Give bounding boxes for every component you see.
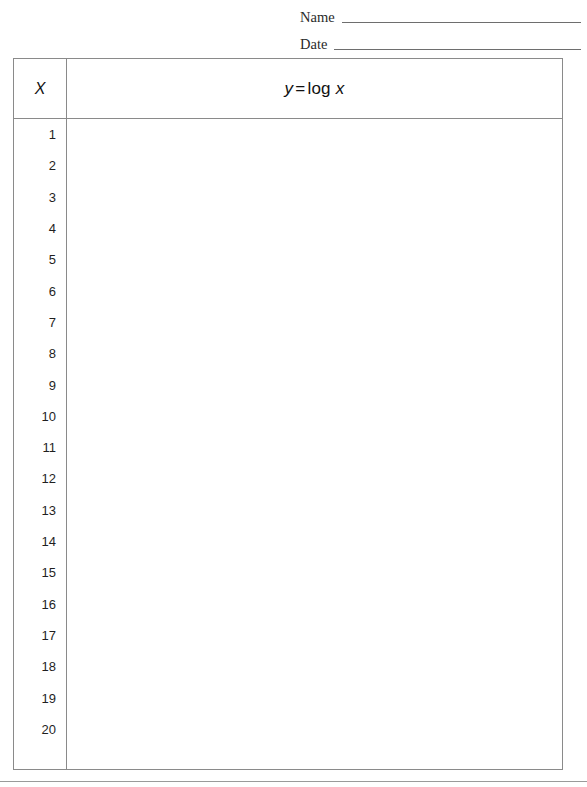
row-x-value: 12 [14, 463, 66, 494]
row-y-answer-cell[interactable] [67, 276, 562, 307]
date-field-row: Date [300, 30, 587, 52]
row-x-value: 3 [14, 182, 66, 213]
row-y-answer-cell[interactable] [67, 150, 562, 181]
row-x-value: 18 [14, 651, 66, 682]
name-label: Name [300, 9, 342, 25]
table-row: 20 [14, 714, 562, 745]
column-header-y: y=log x [67, 59, 562, 118]
table-row: 8 [14, 338, 562, 369]
table-body: 1234567891011121314151617181920 [14, 119, 562, 769]
row-x-value: 16 [14, 589, 66, 620]
row-y-answer-cell[interactable] [67, 714, 562, 745]
row-y-answer-cell[interactable] [67, 495, 562, 526]
row-x-value: 17 [14, 620, 66, 651]
row-x-value: 1 [14, 119, 66, 150]
row-x-value: 11 [14, 432, 66, 463]
name-date-block: Name Date [300, 0, 587, 55]
log-table: X y=log x 123456789101112131415161718192… [13, 58, 563, 770]
row-x-value: 4 [14, 213, 66, 244]
table-row: 11 [14, 432, 562, 463]
table-row: 17 [14, 620, 562, 651]
footer-divider [0, 781, 587, 782]
table-row: 10 [14, 401, 562, 432]
table-row: 6 [14, 276, 562, 307]
table-row: 9 [14, 369, 562, 400]
table-row: 15 [14, 557, 562, 588]
column-header-x: X [14, 59, 66, 118]
name-field-row: Name [300, 3, 587, 25]
table-row: 16 [14, 589, 562, 620]
formula-argument-variable: x [336, 79, 345, 98]
formula-lhs-variable: y [285, 79, 294, 98]
row-y-answer-cell[interactable] [67, 557, 562, 588]
table-row: 14 [14, 526, 562, 557]
row-x-value: 19 [14, 682, 66, 713]
row-y-answer-cell[interactable] [67, 119, 562, 150]
row-x-value: 14 [14, 526, 66, 557]
row-y-answer-cell[interactable] [67, 307, 562, 338]
formula-log-function: log [307, 79, 330, 98]
row-y-answer-cell[interactable] [67, 463, 562, 494]
table-row: 5 [14, 244, 562, 275]
row-y-answer-cell[interactable] [67, 682, 562, 713]
row-y-answer-cell[interactable] [67, 620, 562, 651]
formula-equals-operator: = [293, 79, 307, 98]
table-row: 7 [14, 307, 562, 338]
row-x-value: 5 [14, 244, 66, 275]
row-y-answer-cell[interactable] [67, 651, 562, 682]
table-row: 13 [14, 495, 562, 526]
column-header-y-formula: y=log x [285, 79, 345, 99]
table-row: 19 [14, 682, 562, 713]
row-x-value: 8 [14, 338, 66, 369]
row-y-answer-cell[interactable] [67, 432, 562, 463]
row-x-value: 7 [14, 307, 66, 338]
row-y-answer-cell[interactable] [67, 526, 562, 557]
row-x-value: 6 [14, 276, 66, 307]
row-y-answer-cell[interactable] [67, 401, 562, 432]
name-write-in-line[interactable] [342, 22, 581, 23]
table-row: 4 [14, 213, 562, 244]
table-row: 2 [14, 150, 562, 181]
date-label: Date [300, 36, 334, 52]
column-header-x-label: X [35, 80, 46, 98]
table-header-row: X y=log x [14, 59, 562, 119]
row-x-value: 15 [14, 557, 66, 588]
row-x-value: 9 [14, 369, 66, 400]
row-y-answer-cell[interactable] [67, 369, 562, 400]
table-row: 1 [14, 119, 562, 150]
row-x-value: 20 [14, 714, 66, 745]
row-x-value: 10 [14, 401, 66, 432]
row-y-answer-cell[interactable] [67, 244, 562, 275]
table-row: 18 [14, 651, 562, 682]
table-row: 3 [14, 182, 562, 213]
row-y-answer-cell[interactable] [67, 182, 562, 213]
row-x-value: 13 [14, 495, 66, 526]
table-row: 12 [14, 463, 562, 494]
worksheet-page: Name Date X y=log x 12345678910111213141… [0, 0, 587, 787]
row-x-value: 2 [14, 150, 66, 181]
row-y-answer-cell[interactable] [67, 589, 562, 620]
row-y-answer-cell[interactable] [67, 338, 562, 369]
row-y-answer-cell[interactable] [67, 213, 562, 244]
date-write-in-line[interactable] [334, 49, 581, 50]
